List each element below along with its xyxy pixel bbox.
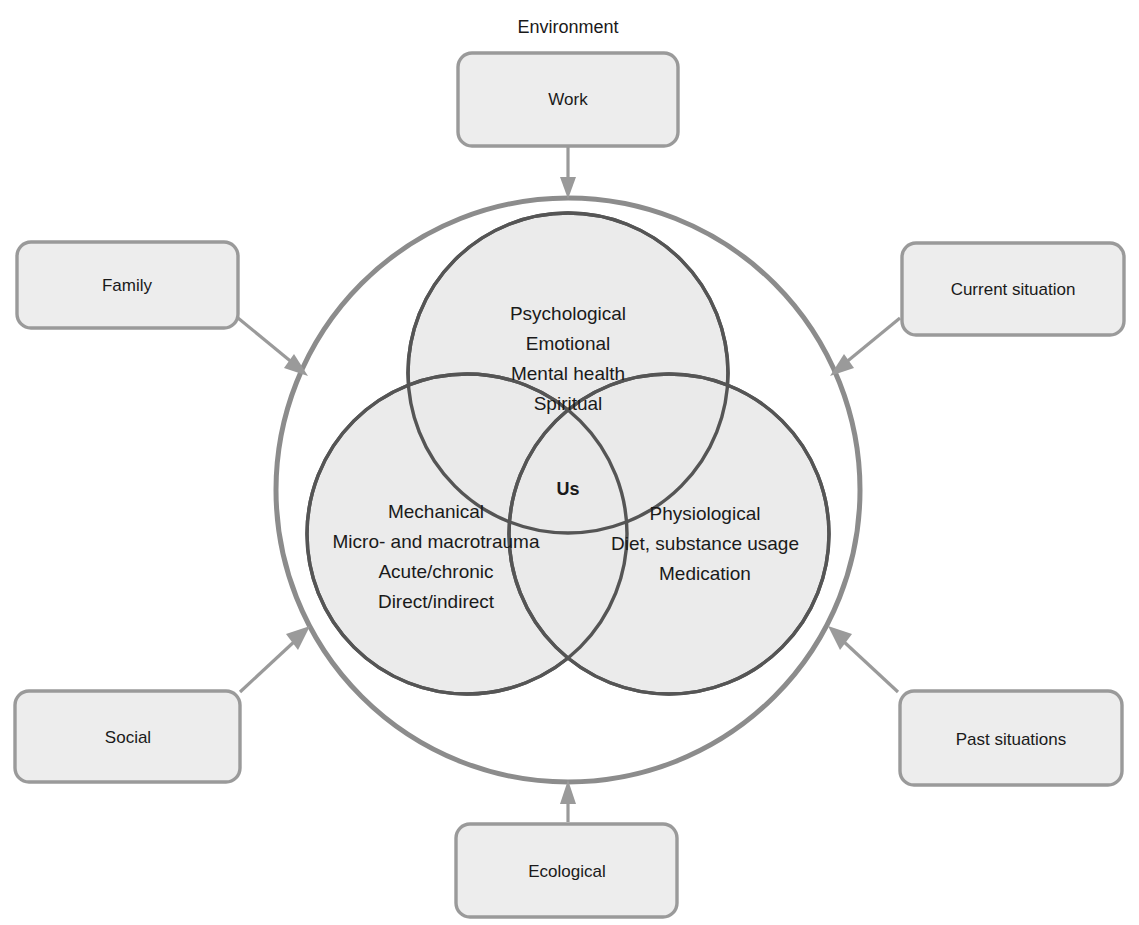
- venn-label-psychological-line-1: Emotional: [526, 333, 611, 354]
- connector-past-situations: [842, 640, 898, 692]
- diagram-title: Environment: [517, 17, 618, 37]
- venn-label-psychological-line-0: Psychological: [510, 303, 626, 324]
- environment-box-family-label: Family: [102, 276, 153, 295]
- venn-label-physiological-line-2: Medication: [659, 563, 751, 584]
- venn-label-psychological-line-3: Spiritual: [534, 393, 603, 414]
- environment-box-work[interactable]: Work: [458, 53, 678, 146]
- venn-label-physiological-line-0: Physiological: [650, 503, 761, 524]
- venn-label-mechanical-line-3: Direct/indirect: [378, 591, 495, 612]
- environment-box-current-situation-label: Current situation: [951, 280, 1076, 299]
- venn-label-psychological-line-2: Mental health: [511, 363, 625, 384]
- environment-box-work-label: Work: [548, 90, 588, 109]
- environment-box-past-situations-label: Past situations: [956, 730, 1067, 749]
- venn-label-physiological-line-1: Diet, substance usage: [611, 533, 799, 554]
- venn-environment-diagram: Environment Work Family Current situatio…: [0, 0, 1139, 925]
- venn-label-mechanical-line-2: Acute/chronic: [378, 561, 493, 582]
- venn-label-mechanical-line-1: Micro- and macrotrauma: [333, 531, 540, 552]
- environment-box-family[interactable]: Family: [17, 242, 238, 328]
- environment-box-past-situations[interactable]: Past situations: [900, 691, 1122, 785]
- environment-box-social-label: Social: [105, 728, 151, 747]
- environment-box-current-situation[interactable]: Current situation: [902, 243, 1124, 335]
- environment-box-ecological[interactable]: Ecological: [456, 824, 677, 917]
- venn-center-label-us: Us: [556, 479, 579, 499]
- venn-label-mechanical-line-0: Mechanical: [388, 501, 484, 522]
- connector-current-situation: [844, 318, 900, 364]
- connector-social: [240, 640, 296, 692]
- connector-family: [238, 318, 294, 364]
- environment-box-social[interactable]: Social: [15, 691, 240, 782]
- environment-box-ecological-label: Ecological: [528, 862, 606, 881]
